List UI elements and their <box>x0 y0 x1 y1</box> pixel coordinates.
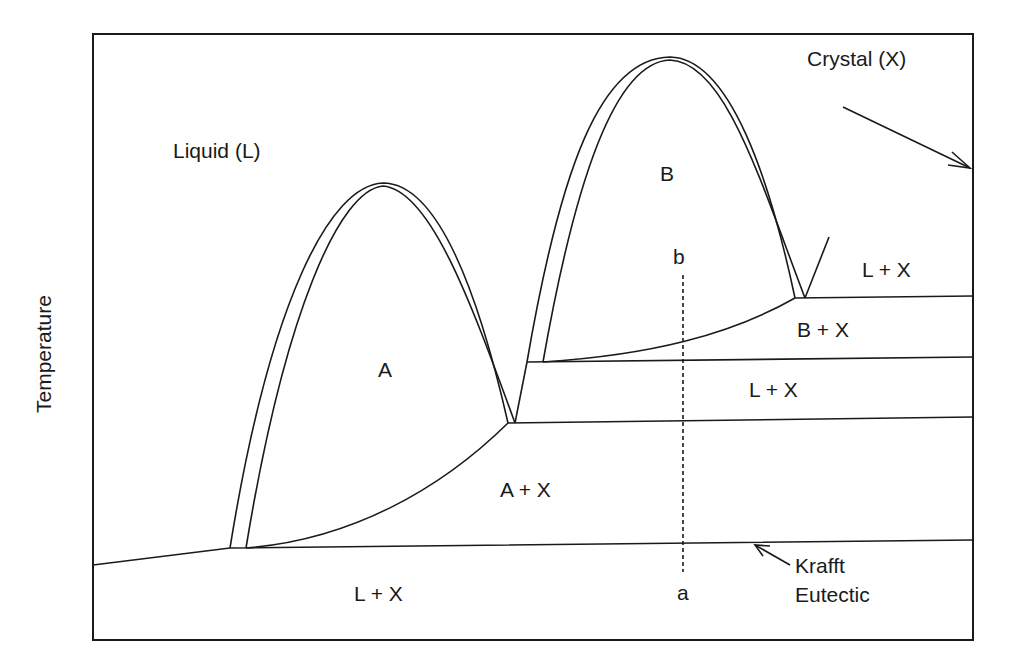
point-b-label: b <box>673 245 685 268</box>
a-b-connector <box>515 362 527 423</box>
point-a-label: a <box>677 581 689 604</box>
krafft-arrow <box>755 545 790 565</box>
phase-b-label: B <box>660 162 674 185</box>
a-plus-x-boundary <box>246 423 508 548</box>
l-plus-x-middle-label: L + X <box>749 378 798 401</box>
crystal-arrow <box>843 107 970 168</box>
phase-a-outer-boundary <box>230 183 508 548</box>
l-plus-x-bottom-label: L + X <box>354 582 403 605</box>
phase-b-upper-line <box>795 296 973 298</box>
phase-diagram: Liquid (L) Crystal (X) A B b a L + X B +… <box>0 0 1009 668</box>
liquid-label: Liquid (L) <box>173 139 261 162</box>
l-x-boundary-tick <box>805 237 829 298</box>
phase-b-inner-boundary <box>543 60 805 362</box>
l-plus-x-top-label: L + X <box>862 258 911 281</box>
krafft-label: Krafft <box>795 554 845 577</box>
crystal-arrow-head <box>948 152 970 168</box>
b-plus-x-label: B + X <box>797 318 849 341</box>
crystal-label: Crystal (X) <box>807 47 906 70</box>
phase-a-eutectic-line <box>508 417 973 423</box>
phase-b-outer-boundary <box>527 57 795 362</box>
y-axis-label: Temperature <box>32 295 55 413</box>
eutectic-label: Eutectic <box>795 583 870 606</box>
a-plus-x-label: A + X <box>500 478 551 501</box>
phase-a-label: A <box>378 358 392 381</box>
b-plus-x-boundary <box>543 298 795 362</box>
